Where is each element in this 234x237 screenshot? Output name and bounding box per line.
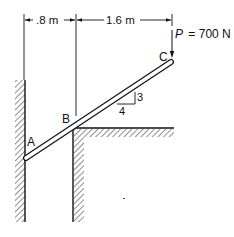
arrow-right-icon [70, 18, 75, 21]
ledge-vertical-hatch [74, 129, 84, 222]
dimension-label-left: .8 m [36, 14, 58, 26]
arrow-left-icon [77, 18, 82, 21]
point-label-b: B [62, 112, 70, 126]
left-wall-hatch [15, 80, 25, 222]
point-label-a: A [27, 135, 35, 149]
load-arrow [170, 30, 174, 58]
arrow-down-icon [170, 51, 174, 58]
stray-mark [123, 198, 125, 199]
arrow-left-icon [25, 18, 30, 21]
dimension-label-right: 1.6 m [106, 14, 135, 26]
beam-diagram: .8 m 1.6 m 3 4 P = 700 N A B C [0, 0, 234, 237]
dimension-lines [24, 14, 172, 116]
slope-rise-label: 3 [137, 91, 143, 103]
beam [26, 62, 171, 158]
ledge-top-hatch [84, 129, 174, 137]
point-label-c: C [159, 50, 168, 64]
arrow-right-icon [166, 18, 171, 21]
ledge-support [73, 128, 174, 222]
slope-run-label: 4 [119, 105, 125, 117]
left-wall [15, 80, 25, 222]
load-label: P = 700 N [175, 27, 231, 41]
